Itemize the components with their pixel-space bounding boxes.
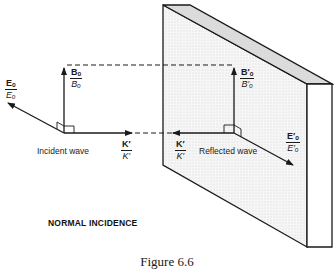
reflected-k-label: K′ K′	[175, 140, 186, 161]
incident-b-label: Bₒ Bₒ	[70, 68, 82, 89]
figure-caption: Figure 6.6	[0, 254, 334, 270]
incident-e-arrow	[8, 103, 64, 133]
reflected-wave-label: Reflected wave	[199, 146, 257, 156]
incident-e-label: Eₒ Eₒ	[5, 79, 17, 100]
diagram-canvas	[0, 0, 334, 275]
figure-title: NORMAL INCIDENCE	[48, 218, 137, 228]
reflecting-plane	[163, 5, 332, 247]
reflected-b-label: B′ₒ B′ₒ	[240, 68, 254, 89]
incident-wave-label: Incident wave	[37, 146, 89, 156]
reflected-e-label: E′ₒ E′ₒ	[286, 132, 300, 153]
incident-k-label: K′ K′	[121, 140, 132, 161]
